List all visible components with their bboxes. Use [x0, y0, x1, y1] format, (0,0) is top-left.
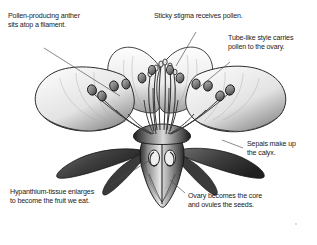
flower-diagram-figure: Pollen-producing anther sits atop a fila…: [0, 0, 317, 245]
label-anther: Pollen-producing anther sits atop a fila…: [8, 12, 136, 30]
hypanthium-cup: [140, 137, 184, 207]
label-sepals: Sepals make up the calyx.: [247, 140, 313, 158]
label-hypanthium: Hypanthium-tissue enlarges to become the…: [10, 188, 128, 206]
label-ovary: Ovary becomes the core and ovules the se…: [188, 192, 300, 210]
leader-sepals: [222, 140, 243, 148]
label-stigma: Sticky stigma receives pollen.: [154, 12, 289, 21]
label-style: Tube-like style carries pollen to the ov…: [228, 34, 316, 52]
speck-mark: [295, 223, 297, 225]
